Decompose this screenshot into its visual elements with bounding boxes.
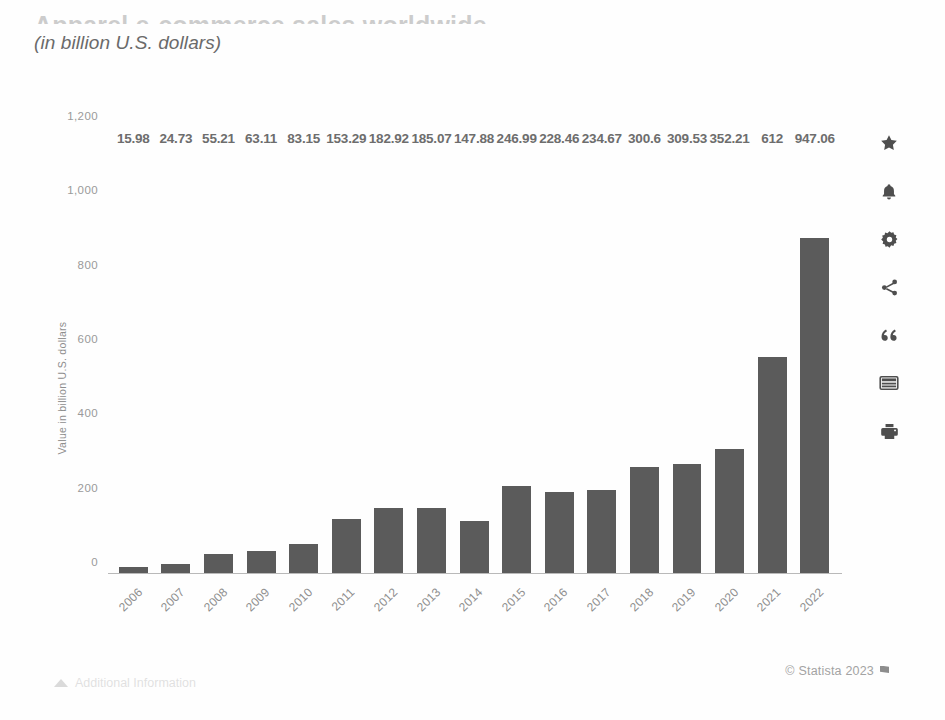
bar-value-label: 83.15 bbox=[287, 131, 320, 146]
chart-action-toolbar bbox=[869, 130, 909, 444]
statista-logo-icon bbox=[880, 666, 889, 677]
bar-value-label: 153.29 bbox=[326, 131, 366, 146]
bar-value-label: 612 bbox=[761, 131, 783, 146]
x-axis-tick-label: 2020 bbox=[712, 585, 741, 614]
x-axis-tick-label: 2011 bbox=[329, 585, 358, 614]
additional-information-link[interactable]: Additional Information bbox=[54, 676, 196, 690]
x-axis-tick-label: 2017 bbox=[584, 585, 613, 614]
caret-up-icon bbox=[54, 679, 68, 687]
y-axis-tick-label: 1,000 bbox=[67, 184, 98, 196]
bar-value-label: 352.21 bbox=[710, 131, 750, 146]
x-axis-tick-label: 2007 bbox=[158, 585, 187, 614]
quote-icon[interactable] bbox=[876, 322, 902, 348]
bar-group: 147.882014 bbox=[453, 149, 496, 573]
statista-credit: © Statista 2023 bbox=[785, 664, 889, 678]
bar-value-label: 947.06 bbox=[795, 131, 835, 146]
x-axis-tick-label: 2015 bbox=[499, 585, 528, 614]
y-axis-tick-label: 800 bbox=[78, 259, 98, 271]
x-axis-tick-label: 2012 bbox=[371, 585, 400, 614]
bar-group: 153.292011 bbox=[325, 149, 368, 573]
bar-rect[interactable] bbox=[800, 238, 829, 573]
bar-group: 6122021 bbox=[751, 149, 794, 573]
bar-group: 24.732007 bbox=[155, 149, 198, 573]
bar-rect[interactable] bbox=[460, 521, 489, 573]
bar-group: 55.212008 bbox=[197, 149, 240, 573]
bar-group: 15.982006 bbox=[112, 149, 155, 573]
bar-rect[interactable] bbox=[502, 486, 531, 573]
x-axis-tick-label: 2019 bbox=[669, 585, 698, 614]
bar-group: 300.62018 bbox=[623, 149, 666, 573]
bar-value-label: 300.6 bbox=[628, 131, 661, 146]
bar-group: 309.532019 bbox=[666, 149, 709, 573]
x-axis-tick-label: 2022 bbox=[797, 585, 826, 614]
bar-value-label: 234.67 bbox=[582, 131, 622, 146]
bar-group: 947.062022 bbox=[794, 149, 837, 573]
bar-value-label: 63.11 bbox=[245, 131, 277, 146]
bar-group: 63.112009 bbox=[240, 149, 283, 573]
x-axis-tick-label: 2010 bbox=[286, 585, 315, 614]
x-axis-tick-label: 2018 bbox=[627, 585, 656, 614]
y-axis-tick-label: 1,200 bbox=[67, 110, 98, 122]
bar-rect[interactable] bbox=[289, 544, 318, 573]
bar-series: 15.98200624.73200755.21200863.11200983.1… bbox=[112, 149, 836, 573]
copyright-text: © Statista 2023 bbox=[785, 664, 874, 678]
bar-rect[interactable] bbox=[758, 357, 787, 573]
bar-rect[interactable] bbox=[630, 467, 659, 573]
share-icon[interactable] bbox=[876, 274, 902, 300]
y-axis-title: Value in billion U.S. dollars bbox=[56, 322, 68, 455]
additional-information-label: Additional Information bbox=[75, 676, 196, 690]
chart-header: Apparel e-commerce sales worldwide (in b… bbox=[34, 10, 734, 54]
bar-value-label: 15.98 bbox=[117, 131, 150, 146]
bar-rect[interactable] bbox=[119, 567, 148, 573]
bar-value-label: 246.99 bbox=[497, 131, 537, 146]
x-axis-tick-label: 2016 bbox=[542, 585, 571, 614]
y-axis-tick-label: 0 bbox=[91, 556, 98, 568]
bar-value-label: 185.07 bbox=[411, 131, 451, 146]
bar-value-label: 55.21 bbox=[202, 131, 235, 146]
bar-group: 228.462016 bbox=[538, 149, 581, 573]
bar-value-label: 228.46 bbox=[539, 131, 579, 146]
bar-rect[interactable] bbox=[673, 464, 702, 573]
bar-rect[interactable] bbox=[587, 490, 616, 573]
bar-rect[interactable] bbox=[332, 519, 361, 573]
bar-group: 352.212020 bbox=[708, 149, 751, 573]
x-axis-tick-label: 2014 bbox=[456, 585, 485, 614]
bar-value-label: 309.53 bbox=[667, 131, 707, 146]
bar-group: 185.072013 bbox=[410, 149, 453, 573]
x-axis-tick-label: 2006 bbox=[116, 585, 145, 614]
bar-value-label: 147.88 bbox=[454, 131, 494, 146]
bar-value-label: 24.73 bbox=[159, 131, 192, 146]
print-icon[interactable] bbox=[876, 418, 902, 444]
table-icon[interactable] bbox=[876, 370, 902, 396]
bar-rect[interactable] bbox=[417, 508, 446, 573]
chart-subtitle: (in billion U.S. dollars) bbox=[34, 32, 734, 54]
y-axis-tick-label: 200 bbox=[78, 482, 98, 494]
bar-chart: Value in billion U.S. dollars 0200400600… bbox=[52, 128, 842, 648]
x-axis-tick-label: 2021 bbox=[754, 585, 783, 614]
bar-rect[interactable] bbox=[545, 492, 574, 573]
y-axis-tick-label: 600 bbox=[78, 333, 98, 345]
page-title: Apparel e-commerce sales worldwide bbox=[34, 10, 734, 24]
chart-page: Apparel e-commerce sales worldwide (in b… bbox=[0, 0, 945, 720]
x-axis-tick-label: 2013 bbox=[414, 585, 443, 614]
bar-group: 182.922012 bbox=[368, 149, 411, 573]
bar-group: 234.672017 bbox=[581, 149, 624, 573]
bell-icon[interactable] bbox=[876, 178, 902, 204]
bar-group: 83.152010 bbox=[282, 149, 325, 573]
bar-rect[interactable] bbox=[161, 564, 190, 573]
x-axis-line bbox=[108, 573, 842, 574]
bar-group: 246.992015 bbox=[495, 149, 538, 573]
bar-rect[interactable] bbox=[247, 551, 276, 573]
gear-icon[interactable] bbox=[876, 226, 902, 252]
bar-rect[interactable] bbox=[715, 449, 744, 573]
bar-value-label: 182.92 bbox=[369, 131, 409, 146]
bar-rect[interactable] bbox=[204, 554, 233, 574]
y-axis-tick-label: 400 bbox=[78, 407, 98, 419]
x-axis-tick-label: 2009 bbox=[243, 585, 272, 614]
x-axis-tick-label: 2008 bbox=[201, 585, 230, 614]
bar-rect[interactable] bbox=[374, 508, 403, 573]
favorite-star-icon[interactable] bbox=[876, 130, 902, 156]
